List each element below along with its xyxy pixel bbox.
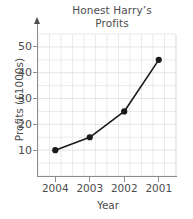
- x-tick-label: 2001: [139, 183, 179, 194]
- plot-area: [38, 34, 176, 176]
- y-tick-mark: [33, 46, 38, 47]
- y-axis-arrow-icon: [34, 17, 40, 24]
- y-tick-mark: [33, 98, 38, 99]
- y-tick-mark: [33, 72, 38, 73]
- y-axis-title: Profits (£1000s): [14, 30, 25, 170]
- x-axis-title: Year: [38, 200, 178, 211]
- data-point-marker: [87, 134, 93, 140]
- chart-figure: Honest Harry’s Profits 1020304050 200420…: [0, 0, 193, 219]
- y-tick-mark: [33, 124, 38, 125]
- series-line: [55, 60, 159, 150]
- chart-title: Honest Harry’s Profits: [36, 4, 188, 30]
- data-point-marker: [156, 57, 162, 63]
- data-point-marker: [121, 108, 127, 114]
- y-tick-mark: [33, 150, 38, 151]
- data-point-marker: [52, 147, 58, 153]
- data-series-line: [38, 34, 176, 176]
- x-axis-line: [37, 176, 177, 177]
